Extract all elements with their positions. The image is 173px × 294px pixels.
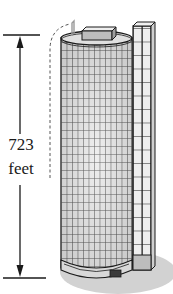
rooftop-structure <box>82 27 116 40</box>
arrowhead-down-icon <box>17 265 24 277</box>
side-tower <box>133 22 155 270</box>
height-unit-label: feet <box>0 160 42 178</box>
entrance-door <box>110 270 121 277</box>
building-height-diagram: 723 feet <box>0 0 173 294</box>
cylindrical-tower <box>61 21 132 278</box>
arrowhead-up-icon <box>17 36 24 48</box>
height-value-label: 723 <box>0 136 42 154</box>
height-dimension-arrow <box>3 35 46 278</box>
